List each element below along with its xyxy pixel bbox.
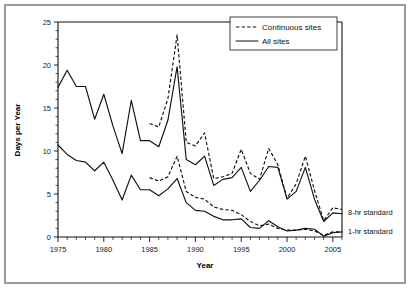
- y-axis-title: Days per Year: [13, 104, 22, 157]
- x-axis-tick-marks: [58, 237, 342, 242]
- x-tick-label: 1980: [95, 245, 112, 254]
- x-tick-label: 1975: [50, 245, 67, 254]
- x-axis-title: Year: [197, 261, 214, 270]
- annotations-group: 8-hr standard1-hr standard: [348, 208, 393, 237]
- x-tick-label: 1995: [233, 245, 250, 254]
- annotation-1-hr-standard: 1-hr standard: [348, 227, 393, 236]
- chart-legend: Continuous sites All sites: [230, 17, 337, 50]
- line-chart: 0510152025 1975198019851990199520002005 …: [0, 0, 410, 290]
- axes-group: [54, 22, 342, 242]
- axis-lines: [58, 22, 342, 237]
- x-tick-label: 1990: [187, 245, 204, 254]
- data-series-group: [58, 35, 342, 236]
- x-tick-label: 2000: [279, 245, 296, 254]
- annotation-8-hr-standard: 8-hr standard: [348, 208, 393, 217]
- y-tick-label: 10: [43, 147, 51, 156]
- x-tick-label: 2005: [324, 245, 341, 254]
- legend-label-continuous-sites: Continuous sites: [262, 23, 321, 32]
- y-tick-label: 5: [47, 190, 51, 199]
- y-axis-tick-marks: [54, 22, 58, 237]
- y-tick-label: 20: [43, 61, 51, 70]
- y-tick-label: 25: [43, 18, 51, 27]
- legend-label-all-sites: All sites: [262, 37, 290, 46]
- figure-container: 0510152025 1975198019851990199520002005 …: [0, 0, 410, 290]
- y-tick-label: 0: [47, 233, 51, 242]
- y-axis-tick-labels: 0510152025: [43, 18, 51, 242]
- series-line-all-sites-1-hr-standard: [58, 145, 342, 236]
- series-line-all-sites-8-hr-standard: [58, 67, 342, 222]
- x-axis-tick-labels: 1975198019851990199520002005: [50, 245, 342, 254]
- x-tick-label: 1985: [141, 245, 158, 254]
- y-tick-label: 15: [43, 104, 51, 113]
